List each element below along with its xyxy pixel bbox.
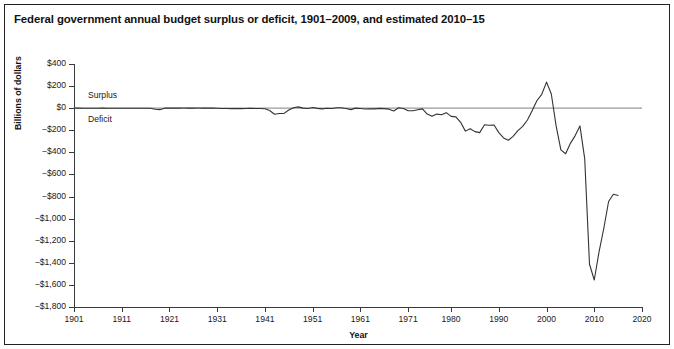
x-tick-mark	[169, 307, 170, 312]
x-tick-mark	[499, 307, 500, 312]
y-tick-label: −$1,200	[14, 235, 66, 245]
x-tick-label: 1971	[386, 314, 430, 324]
y-tick-label: −$1,000	[14, 213, 66, 223]
y-tick-label: −$400	[14, 146, 66, 156]
x-axis-line	[74, 307, 643, 308]
budget-series-line	[74, 82, 618, 280]
x-tick-label: 1941	[243, 314, 287, 324]
x-tick-label: 1921	[147, 314, 191, 324]
x-tick-mark	[642, 307, 643, 312]
plot-svg	[74, 64, 642, 307]
x-tick-label: 1961	[338, 314, 382, 324]
x-tick-mark	[408, 307, 409, 312]
y-tick-label: −$800	[14, 191, 66, 201]
y-tick-label: −$1,600	[14, 279, 66, 289]
x-tick-label: 1951	[291, 314, 335, 324]
chart-figure: Federal government annual budget surplus…	[0, 0, 674, 349]
x-tick-label: 2010	[572, 314, 616, 324]
x-tick-label: 1911	[100, 314, 144, 324]
plot-area	[74, 64, 642, 307]
chart-title: Federal government annual budget surplus…	[14, 13, 634, 25]
x-tick-label: 1980	[429, 314, 473, 324]
x-tick-label: 1931	[195, 314, 239, 324]
x-tick-label: 1990	[477, 314, 521, 324]
x-tick-mark	[217, 307, 218, 312]
x-tick-label: 2020	[620, 314, 664, 324]
x-tick-mark	[547, 307, 548, 312]
y-tick-label: −$1,800	[14, 301, 66, 311]
y-tick-label: −$1,400	[14, 257, 66, 267]
x-axis-title: Year	[74, 330, 643, 340]
x-tick-mark	[122, 307, 123, 312]
x-tick-label: 2000	[525, 314, 569, 324]
x-tick-label: 1901	[52, 314, 96, 324]
y-tick-label: −$600	[14, 168, 66, 178]
x-tick-mark	[360, 307, 361, 312]
x-tick-mark	[451, 307, 452, 312]
x-tick-mark	[74, 307, 75, 312]
x-tick-mark	[313, 307, 314, 312]
y-axis-title: Billions of dollars	[13, 56, 23, 130]
x-tick-mark	[594, 307, 595, 312]
x-tick-mark	[265, 307, 266, 312]
